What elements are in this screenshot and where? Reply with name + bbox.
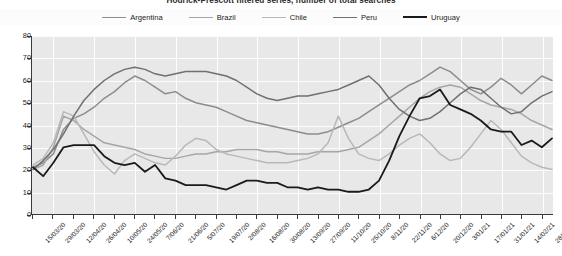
x-tick-label: 11/10/20 bbox=[349, 221, 372, 244]
series-line-chile bbox=[33, 112, 552, 174]
x-tick-mark bbox=[154, 215, 155, 219]
y-tick-label: 60 bbox=[7, 77, 31, 85]
y-tick-label: 0 bbox=[7, 211, 31, 219]
legend-swatch-icon bbox=[262, 17, 286, 18]
series-lines bbox=[32, 36, 553, 214]
x-tick-mark bbox=[134, 215, 135, 219]
x-tick-mark bbox=[420, 215, 421, 219]
x-tick-label: 19/07/20 bbox=[227, 221, 250, 244]
x-tick-label: 13/09/20 bbox=[309, 221, 332, 244]
legend-swatch-icon bbox=[403, 16, 427, 18]
legend-label: Uruguay bbox=[431, 13, 460, 22]
x-tick-mark bbox=[256, 215, 257, 219]
legend-label: Brazil bbox=[217, 13, 236, 22]
x-tick-mark bbox=[52, 215, 53, 219]
y-tick-label: 20 bbox=[7, 166, 31, 174]
y-tick-label: 80 bbox=[7, 32, 31, 40]
x-tick-label: 10/05/20 bbox=[125, 221, 148, 244]
x-tick-label: 6/12/20 bbox=[430, 221, 451, 242]
chart-legend: ArgentinaBrazilChilePeruUruguay bbox=[0, 9, 562, 25]
x-tick-label: 31/01/21 bbox=[513, 221, 536, 244]
legend-item-chile[interactable]: Chile bbox=[262, 13, 307, 22]
y-tick-label: 40 bbox=[7, 122, 31, 130]
x-tick-label: 25/10/20 bbox=[370, 221, 393, 244]
x-tick-label: 29/03/20 bbox=[64, 221, 87, 244]
chart-root: Hodrick-Prescott filtered series, number… bbox=[0, 0, 562, 256]
x-tick-mark bbox=[32, 215, 33, 219]
y-tick-label: 30 bbox=[7, 144, 31, 152]
y-tick-label: 10 bbox=[7, 189, 31, 197]
x-tick-label: 15/03/20 bbox=[44, 221, 67, 244]
legend-item-argentina[interactable]: Argentina bbox=[102, 13, 163, 22]
plot-inner bbox=[32, 36, 553, 214]
x-tick-label: 21/06/20 bbox=[186, 221, 209, 244]
legend-item-peru[interactable]: Peru bbox=[333, 13, 377, 22]
x-tick-mark bbox=[460, 215, 461, 219]
x-tick-mark bbox=[175, 215, 176, 219]
x-tick-mark bbox=[297, 215, 298, 219]
x-tick-mark bbox=[399, 215, 400, 219]
x-tick-mark bbox=[338, 215, 339, 219]
x-tick-label: 22/11/20 bbox=[410, 221, 433, 244]
x-tick-mark bbox=[195, 215, 196, 219]
legend-swatch-icon bbox=[102, 17, 126, 18]
x-tick-label: 20/12/20 bbox=[451, 221, 474, 244]
x-tick-mark bbox=[440, 215, 441, 219]
x-tick-mark bbox=[277, 215, 278, 219]
x-tick-mark bbox=[379, 215, 380, 219]
x-tick-label: 24/05/20 bbox=[145, 221, 168, 244]
x-tick-label: 30/08/20 bbox=[288, 221, 311, 244]
x-tick-mark bbox=[318, 215, 319, 219]
x-tick-mark bbox=[501, 215, 502, 219]
plot-area bbox=[31, 36, 553, 215]
x-tick-label: 27/09/20 bbox=[329, 221, 352, 244]
series-line-uruguay bbox=[33, 89, 552, 191]
x-tick-label: 26/04/20 bbox=[105, 221, 128, 244]
x-tick-mark bbox=[521, 215, 522, 219]
x-tick-label: 16/08/20 bbox=[268, 221, 291, 244]
x-tick-mark bbox=[358, 215, 359, 219]
legend-label: Argentina bbox=[130, 13, 163, 22]
x-tick-mark bbox=[93, 215, 94, 219]
legend-label: Peru bbox=[361, 13, 377, 22]
chart-title: Hodrick-Prescott filtered series, number… bbox=[0, 0, 562, 6]
x-tick-mark bbox=[216, 215, 217, 219]
y-tick-label: 50 bbox=[7, 99, 31, 107]
x-tick-mark bbox=[73, 215, 74, 219]
x-tick-mark bbox=[114, 215, 115, 219]
legend-label: Chile bbox=[290, 13, 307, 22]
x-tick-label: 17/01/21 bbox=[492, 221, 515, 244]
y-axis: 80706050403020100 bbox=[0, 0, 31, 256]
x-tick-label: 14/02/21 bbox=[533, 221, 556, 244]
x-tick-mark bbox=[236, 215, 237, 219]
legend-swatch-icon bbox=[333, 17, 357, 18]
x-tick-label: 12/04/20 bbox=[84, 221, 107, 244]
x-tick-mark bbox=[542, 215, 543, 219]
y-tick-label: 70 bbox=[7, 54, 31, 62]
legend-item-uruguay[interactable]: Uruguay bbox=[403, 13, 460, 22]
x-tick-mark bbox=[481, 215, 482, 219]
legend-item-brazil[interactable]: Brazil bbox=[189, 13, 236, 22]
legend-swatch-icon bbox=[189, 17, 213, 18]
